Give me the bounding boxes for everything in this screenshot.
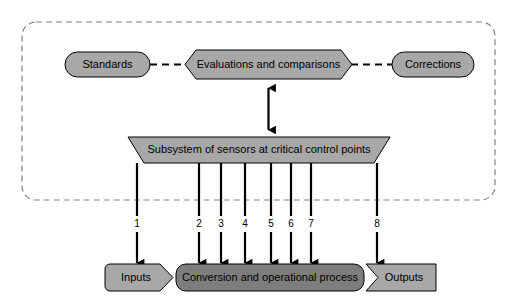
node-corrections[interactable]: Corrections <box>392 52 474 77</box>
sensor-number-4: 4 <box>242 218 248 229</box>
node-subsystem[interactable]: Subsystem of sensors at critical control… <box>128 137 390 163</box>
sensor-number-2: 2 <box>196 218 202 229</box>
sensor-number-7: 7 <box>308 218 314 229</box>
sensor-number-group: 1 2 3 4 5 6 7 8 <box>134 218 380 229</box>
sensor-number-6: 6 <box>288 218 294 229</box>
control-system-boundary <box>22 22 495 200</box>
sensor-number-3: 3 <box>218 218 224 229</box>
outputs-label: Outputs <box>385 271 424 283</box>
sensor-number-backplates <box>131 216 383 232</box>
subsystem-label: Subsystem of sensors at critical control… <box>147 143 371 155</box>
node-process[interactable]: Conversion and operational process <box>176 264 364 291</box>
corrections-label: Corrections <box>405 58 462 70</box>
diagram-canvas: Standards Evaluations and comparisons Co… <box>0 0 516 305</box>
node-inputs[interactable]: Inputs <box>105 264 173 291</box>
sensor-arrow-group <box>137 163 377 263</box>
sensor-number-5: 5 <box>268 218 274 229</box>
node-standards[interactable]: Standards <box>65 52 150 77</box>
sensor-number-1: 1 <box>134 218 140 229</box>
sensor-number-8: 8 <box>374 218 380 229</box>
node-outputs[interactable]: Outputs <box>366 264 436 291</box>
node-evaluations[interactable]: Evaluations and comparisons <box>185 50 352 79</box>
standards-label: Standards <box>82 58 133 70</box>
process-label: Conversion and operational process <box>182 271 359 283</box>
inputs-label: Inputs <box>121 271 151 283</box>
evaluations-label: Evaluations and comparisons <box>197 58 341 70</box>
